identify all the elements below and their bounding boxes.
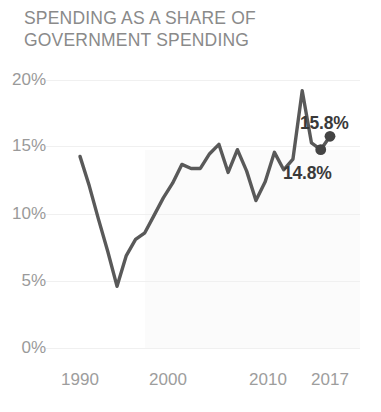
series-line	[80, 91, 330, 287]
plot-area: 20% 15% 10% 5% 0% 1990 2000 2010 2017 15…	[0, 0, 381, 412]
annotation-15-8: 15.8%	[300, 113, 349, 134]
data-point-marker-0	[315, 144, 326, 155]
chart-container: SPENDING AS A SHARE OF GOVERNMENT SPENDI…	[0, 0, 381, 412]
series-line-group	[0, 0, 381, 412]
annotation-14-8: 14.8%	[283, 163, 332, 184]
